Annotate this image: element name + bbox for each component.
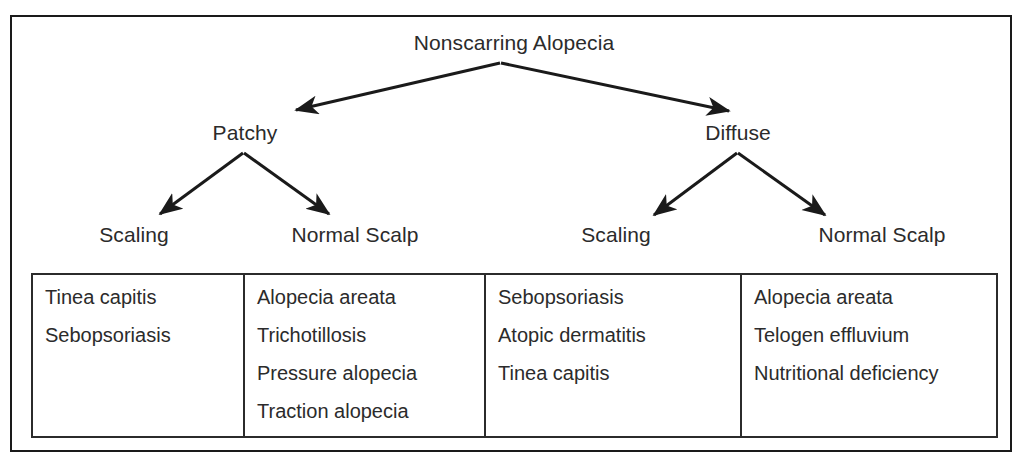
- list-item: Nutritional deficiency: [754, 363, 996, 383]
- list-item: Sebopsoriasis: [498, 287, 740, 307]
- list-item: Pressure alopecia: [257, 363, 484, 383]
- node-patchy-normal-scalp: Normal Scalp: [291, 223, 418, 247]
- table-column: Alopecia areata Telogen effluvium Nutrit…: [742, 275, 996, 436]
- conditions-table: Tinea capitis Sebopsoriasis Alopecia are…: [31, 273, 998, 438]
- list-item: Alopecia areata: [754, 287, 996, 307]
- node-patchy-scaling: Scaling: [99, 223, 169, 247]
- list-item: Tinea capitis: [45, 287, 243, 307]
- node-diffuse-normal-scalp: Normal Scalp: [818, 223, 945, 247]
- node-patchy: Patchy: [213, 121, 278, 145]
- table-column: Tinea capitis Sebopsoriasis: [33, 275, 245, 436]
- node-nonscarring-alopecia: Nonscarring Alopecia: [414, 31, 614, 55]
- list-item: Tinea capitis: [498, 363, 740, 383]
- table-column: Sebopsoriasis Atopic dermatitis Tinea ca…: [486, 275, 742, 436]
- node-diffuse-scaling: Scaling: [581, 223, 651, 247]
- list-item: Sebopsoriasis: [45, 325, 243, 345]
- list-item: Trichotillosis: [257, 325, 484, 345]
- node-diffuse: Diffuse: [705, 121, 771, 145]
- list-item: Alopecia areata: [257, 287, 484, 307]
- list-item: Atopic dermatitis: [498, 325, 740, 345]
- diagram-page: Nonscarring Alopecia Patchy Diffuse Scal…: [0, 0, 1028, 466]
- list-item: Traction alopecia: [257, 401, 484, 421]
- list-item: Telogen effluvium: [754, 325, 996, 345]
- table-column: Alopecia areata Trichotillosis Pressure …: [245, 275, 486, 436]
